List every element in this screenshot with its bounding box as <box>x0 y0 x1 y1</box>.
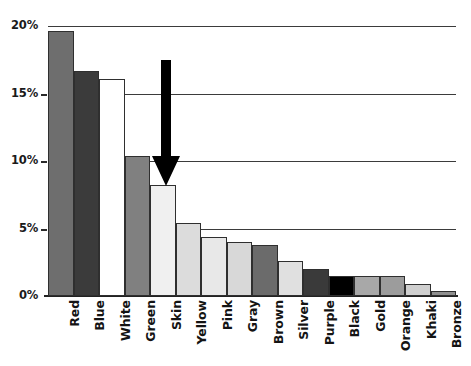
bar-blue <box>74 71 100 296</box>
bar-bronze <box>431 291 457 296</box>
bar-white <box>99 79 125 296</box>
bar-silver <box>278 261 304 296</box>
x-tick-label-red: Red <box>67 300 82 327</box>
x-tick-label-orange: Orange <box>398 300 413 351</box>
bar-brown <box>252 245 278 296</box>
x-tick-label-brown: Brown <box>271 300 286 344</box>
x-tick-label-bronze: Bronze <box>449 300 464 348</box>
y-tick-label: 5% <box>2 221 38 235</box>
bar-skin <box>150 185 176 296</box>
x-tick-label-black: Black <box>347 300 362 337</box>
bar-gray <box>227 242 253 296</box>
bar-green <box>125 156 151 296</box>
y-tick-label: 0% <box>2 288 38 302</box>
bar-khaki <box>405 284 431 296</box>
x-tick-label-gold: Gold <box>373 300 388 332</box>
x-tick-label-skin: Skin <box>169 300 184 330</box>
bar-black <box>329 276 355 296</box>
y-tick-mark <box>41 161 47 163</box>
bar-red <box>48 31 74 296</box>
y-tick-label: 20% <box>2 18 38 32</box>
bar-chart: 0%5%10%15%20% RedBlueWhiteGreenSkinYello… <box>0 0 471 366</box>
bar-pink <box>201 237 227 296</box>
x-tick-label-silver: Silver <box>296 300 311 340</box>
bar-yellow <box>176 223 202 296</box>
x-tick-label-gray: Gray <box>245 300 260 332</box>
y-tick-label: 10% <box>2 153 38 167</box>
x-tick-label-khaki: Khaki <box>424 300 439 339</box>
x-tick-label-yellow: Yellow <box>194 300 209 345</box>
x-tick-label-purple: Purple <box>322 300 337 345</box>
y-tick-mark <box>41 229 47 231</box>
bar-orange <box>380 276 406 296</box>
y-tick-mark <box>41 94 47 96</box>
x-tick-label-pink: Pink <box>220 300 235 330</box>
x-tick-label-green: Green <box>143 300 158 342</box>
y-tick-label: 15% <box>2 86 38 100</box>
bars-layer <box>48 26 456 296</box>
x-tick-label-blue: Blue <box>92 300 107 331</box>
x-tick-label-white: White <box>118 300 133 341</box>
bar-purple <box>303 269 329 296</box>
bar-gold <box>354 276 380 296</box>
